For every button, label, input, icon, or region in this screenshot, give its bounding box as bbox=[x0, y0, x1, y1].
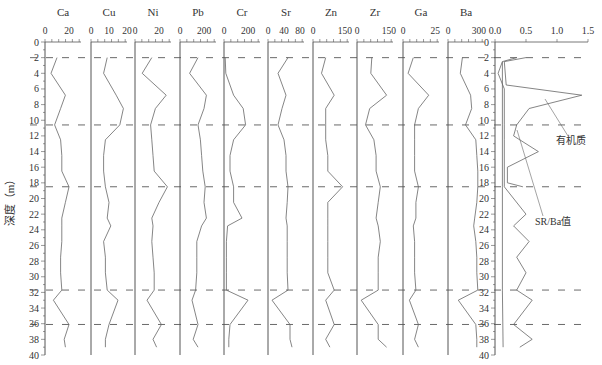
tick-label: 0 bbox=[89, 26, 94, 36]
panel-ni: Ni020 bbox=[133, 6, 171, 355]
depth-tick-label: 34 bbox=[479, 303, 489, 314]
panel-pb: Pb0200 bbox=[178, 6, 216, 355]
depth-tick-label: 10 bbox=[479, 115, 489, 126]
depth-tick-label: 22 bbox=[29, 209, 39, 220]
depth-tick-label: 14 bbox=[479, 146, 489, 157]
series-line bbox=[408, 58, 429, 348]
depth-tick-label: 24 bbox=[479, 224, 489, 235]
depth-tick-label: 6 bbox=[484, 83, 489, 94]
depth-tick-label: 2 bbox=[484, 52, 489, 63]
depth-tick-label: 4 bbox=[34, 68, 39, 79]
tick-label: 0 bbox=[43, 26, 48, 36]
depth-tick-label: 26 bbox=[29, 240, 39, 251]
panel-cr: Cr0200 bbox=[222, 6, 260, 355]
series-line bbox=[142, 58, 167, 348]
panel-title: Ga bbox=[415, 6, 428, 18]
organic-srba-panel: 0.00.51.01.5有机质SR/Ba值 bbox=[489, 25, 595, 347]
depth-axis: 0246810121416182022242628303234363840024… bbox=[29, 37, 495, 361]
series-line bbox=[361, 58, 386, 348]
series-line bbox=[51, 58, 69, 348]
depth-tick-label: 6 bbox=[34, 83, 39, 94]
panel-zr: Zr0150 bbox=[355, 6, 397, 355]
depth-tick-label: 38 bbox=[29, 334, 39, 345]
panel-title: Sr bbox=[281, 6, 291, 18]
tick-label: 25 bbox=[430, 26, 440, 36]
tick-label: 80 bbox=[295, 26, 305, 36]
depth-tick-label: 16 bbox=[29, 162, 39, 173]
tick-label: 20 bbox=[122, 26, 132, 36]
series-line bbox=[225, 58, 248, 348]
depth-tick-label: 16 bbox=[479, 162, 489, 173]
panel-title: Pb bbox=[192, 6, 204, 18]
annotation-label: 有机质 bbox=[556, 134, 586, 146]
depth-tick-label: 8 bbox=[34, 99, 39, 110]
right-tick-label: 0.5 bbox=[520, 25, 533, 36]
y-axis-label: 深度（m） bbox=[3, 174, 16, 227]
tick-label: 0 bbox=[178, 26, 183, 36]
annotation-label: SR/Ba值 bbox=[535, 215, 571, 227]
depth-tick-label: 24 bbox=[29, 224, 39, 235]
tick-label: 0 bbox=[446, 26, 451, 36]
depth-tick-label: 22 bbox=[479, 209, 489, 220]
depth-tick-label: 34 bbox=[29, 303, 39, 314]
panel-cu: Cu01020 bbox=[89, 6, 132, 355]
depth-tick-label: 12 bbox=[29, 130, 39, 141]
series-line bbox=[104, 58, 124, 348]
tick-label: 0 bbox=[222, 26, 227, 36]
depth-tick-label: 8 bbox=[484, 99, 489, 110]
depth-tick-label: 28 bbox=[479, 256, 489, 267]
boundary-lines bbox=[30, 58, 590, 325]
depth-tick-label: 40 bbox=[29, 350, 39, 361]
depth-tick-label: 20 bbox=[29, 193, 39, 204]
depth-tick-label: 36 bbox=[479, 318, 489, 329]
depth-tick-label: 2 bbox=[34, 52, 39, 63]
tick-label: 0 bbox=[266, 26, 271, 36]
depth-tick-label: 0 bbox=[484, 37, 489, 48]
depth-tick-label: 10 bbox=[29, 115, 39, 126]
depth-tick-label: 32 bbox=[479, 287, 489, 298]
panel-title: Cr bbox=[237, 6, 248, 18]
depth-tick-label: 0 bbox=[34, 37, 39, 48]
tick-label: 200 bbox=[197, 26, 212, 36]
panel-sr: Sr04080 bbox=[266, 6, 305, 355]
panel-ca: Ca020 bbox=[43, 6, 81, 355]
depth-tick-label: 18 bbox=[29, 177, 39, 188]
series-baseline bbox=[502, 62, 503, 348]
tick-label: 300 bbox=[472, 26, 487, 36]
depth-tick-label: 14 bbox=[29, 146, 39, 157]
depth-tick-label: 32 bbox=[29, 287, 39, 298]
panel-title: Cu bbox=[103, 6, 116, 18]
tick-label: 20 bbox=[154, 26, 164, 36]
series-organic-matter bbox=[504, 58, 582, 187]
tick-label: 150 bbox=[382, 26, 397, 36]
depth-tick-label: 12 bbox=[479, 130, 489, 141]
depth-tick-label: 40 bbox=[479, 350, 489, 361]
panel-title: Ca bbox=[57, 6, 69, 18]
tick-label: 10 bbox=[104, 26, 114, 36]
tick-label: 0 bbox=[311, 26, 316, 36]
series-line bbox=[458, 58, 478, 348]
element-panels: Ca020Cu01020Ni020Pb0200Cr0200Sr04080Zn01… bbox=[43, 6, 487, 355]
series-line bbox=[272, 58, 292, 348]
panel-zn: Zn0150 bbox=[311, 6, 353, 355]
right-tick-label: 1.5 bbox=[582, 25, 595, 36]
tick-label: 0 bbox=[401, 26, 406, 36]
depth-tick-label: 38 bbox=[479, 334, 489, 345]
depth-tick-label: 36 bbox=[29, 318, 39, 329]
depth-tick-label: 26 bbox=[479, 240, 489, 251]
series-sr-ba bbox=[498, 58, 532, 348]
panel-ga: Ga025 bbox=[401, 6, 441, 355]
panel-title: Zn bbox=[325, 6, 338, 18]
panel-title: Ni bbox=[148, 6, 159, 18]
depth-tick-label: 4 bbox=[484, 68, 489, 79]
series-line bbox=[190, 58, 207, 348]
depth-tick-label: 28 bbox=[29, 256, 39, 267]
depth-tick-label: 30 bbox=[29, 271, 39, 282]
geochemical-depth-profile-chart: Ca020Cu01020Ni020Pb0200Cr0200Sr04080Zn01… bbox=[0, 0, 602, 365]
tick-label: 40 bbox=[279, 26, 289, 36]
tick-label: 20 bbox=[64, 26, 74, 36]
panel-title: Zr bbox=[370, 6, 381, 18]
depth-tick-label: 18 bbox=[479, 177, 489, 188]
panel-title: Ba bbox=[460, 6, 472, 18]
series-line bbox=[322, 58, 343, 348]
